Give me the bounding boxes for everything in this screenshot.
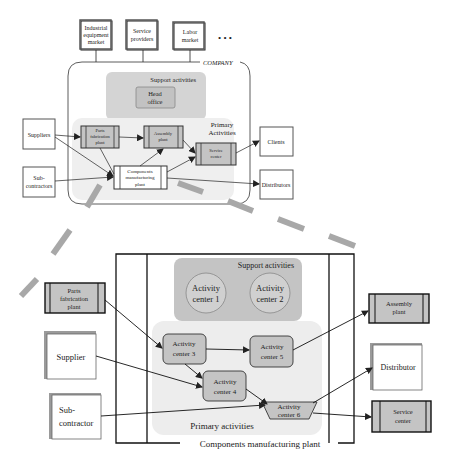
- svg-text:Suppliers: Suppliers: [28, 132, 51, 138]
- activity-center-5: Activitycenter 5: [250, 336, 293, 367]
- svg-text:PrimaryActivities: PrimaryActivities: [208, 121, 235, 137]
- activity-center-2: Activitycenter 2: [250, 273, 290, 313]
- activity-center-1: Activitycenter 1: [186, 273, 226, 313]
- bottom-distributor-box: Distributor: [370, 343, 422, 390]
- top-suppliers-box: Suppliers: [23, 119, 55, 149]
- market-labor: Labormarket: [173, 22, 205, 50]
- svg-text:Headoffice: Headoffice: [147, 90, 162, 105]
- activity-center-3: Activitycenter 3: [163, 334, 206, 364]
- top-support-label: Support activities: [150, 76, 196, 83]
- bottom-service-center: Servicecenter: [372, 401, 431, 432]
- bottom-assembly-plant: Assemblyplant: [369, 294, 429, 323]
- market-industrial-equipment: Industrialequipmentmarket: [80, 20, 112, 50]
- value-chain-diagram: Industrialequipmentmarket Serviceprovide…: [0, 0, 452, 465]
- svg-text:Supplier: Supplier: [57, 352, 86, 362]
- svg-text:Distributor: Distributor: [380, 363, 415, 372]
- svg-text:Activitycenter 2: Activitycenter 2: [256, 283, 285, 304]
- bottom-parts-plant: Partsfabricationplant: [45, 283, 105, 313]
- market-service-providers: Serviceproviders: [126, 20, 158, 50]
- svg-text:Activitycenter 1: Activitycenter 1: [192, 283, 221, 304]
- top-distributors-box: Distributors: [260, 170, 293, 199]
- activity-center-6: Activitycenter 6: [262, 402, 317, 419]
- plant-label: Components manufacturing plant: [200, 439, 321, 449]
- bottom-primary-label: Primary activities: [190, 421, 254, 431]
- activity-center-4: Activitycenter 4: [203, 371, 246, 401]
- ellipsis: • • •: [218, 33, 232, 43]
- top-components-plant: Componentsmanufacturingplant: [114, 166, 167, 189]
- bottom-support-label: Support activities: [238, 261, 294, 270]
- svg-text:Clients: Clients: [267, 139, 285, 145]
- company-label: COMPANY: [203, 59, 234, 66]
- svg-text:Distributors: Distributors: [262, 182, 291, 188]
- svg-text:Activitycenter 6: Activitycenter 6: [278, 403, 301, 419]
- top-assembly-plant: Assemblyplant: [144, 126, 183, 148]
- top-subcontractors-box: Sub-contractors: [23, 167, 55, 197]
- bottom-subcontractor-box: Sub-contractor: [49, 393, 101, 439]
- bottom-supplier-box: Supplier: [44, 331, 96, 379]
- top-clients-box: Clients: [260, 127, 293, 156]
- top-service-center: Servicecenter: [196, 143, 236, 165]
- top-parts-plant: Partsfabricationplant: [81, 126, 119, 148]
- svg-text:Servicecenter: Servicecenter: [209, 148, 223, 159]
